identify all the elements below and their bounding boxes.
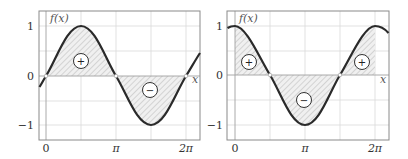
ytick-1: 1: [216, 20, 223, 33]
minus-sign: −: [146, 85, 154, 96]
plus-sign: +: [245, 57, 253, 68]
xtick-2pi: 2π: [367, 142, 383, 155]
ytick-0: 0: [27, 70, 34, 83]
plus-marker: +: [74, 54, 89, 69]
zero-point: [44, 74, 48, 78]
x-axis-label: x: [192, 73, 199, 86]
plus-sign: +: [358, 57, 366, 68]
cosine-plot: + − + f(x) x 1 0 −1 0 π 2π: [207, 11, 389, 155]
xtick-2pi: 2π: [178, 142, 194, 155]
y-axis-label: f(x): [238, 12, 258, 25]
ytick-minus-1: −1: [207, 119, 223, 132]
minus-marker: −: [297, 93, 312, 108]
plus-marker-right: +: [355, 55, 370, 70]
ytick-minus-1: −1: [18, 119, 34, 132]
plus-sign: +: [77, 56, 85, 67]
zero-point: [268, 73, 272, 77]
plus-marker-left: +: [242, 55, 257, 70]
xtick-0: 0: [43, 142, 50, 155]
minus-sign: −: [300, 95, 308, 106]
zero-point: [114, 74, 118, 78]
zero-point: [184, 74, 188, 78]
ytick-0: 0: [216, 69, 223, 82]
ytick-1: 1: [27, 20, 34, 33]
zero-point: [338, 73, 342, 77]
xtick-pi: π: [111, 142, 120, 155]
xtick-pi: π: [300, 142, 309, 155]
x-axis-label: x: [380, 73, 387, 86]
xtick-0: 0: [232, 142, 239, 155]
figure: + − f(x) x 1 0 −1 0 π 2π: [0, 0, 408, 159]
minus-marker: −: [143, 83, 158, 98]
sine-plot: + − f(x) x 1 0 −1 0 π 2π: [18, 11, 200, 155]
y-axis-label: f(x): [49, 12, 69, 25]
